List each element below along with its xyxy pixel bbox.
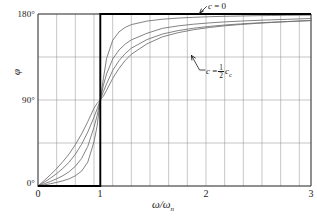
curve-zeta-010 — [38, 15, 311, 186]
x-axis-title-num: ω — [152, 198, 160, 210]
damped-phase-curves — [38, 15, 311, 186]
annotation-c-half-fraction: 12 — [218, 64, 224, 80]
x-tick-label-2: 2 — [197, 189, 215, 199]
annotation-c-zero-value: 0 — [222, 1, 227, 11]
phase-angle-plot — [0, 0, 317, 216]
annotation-c-half-critical: c =12cc — [206, 64, 232, 80]
chart-figure: 180° 90° 0° 0 1 2 3 φ ω/ωn c = 0 c =12cc — [0, 0, 317, 216]
y-tick-label-180: 180° — [2, 10, 35, 19]
leader-c-half — [192, 56, 206, 71]
annotation-c-half-eq: = — [212, 66, 217, 76]
x-tick-label-1: 1 — [91, 189, 109, 199]
annotation-c-zero-eq: = — [214, 1, 219, 11]
y-tick-label-90: 90° — [2, 96, 35, 105]
annotation-c-zero-var: c — [208, 1, 212, 11]
curve-zeta-020 — [38, 19, 311, 187]
x-axis-title: ω/ωn — [133, 198, 193, 213]
y-axis-title: φ — [10, 62, 22, 82]
annotation-c-equals-zero: c = 0 — [208, 1, 226, 11]
annotation-c-half-var: c — [206, 66, 210, 76]
x-axis-title-sub: n — [171, 205, 175, 213]
annotation-leaders — [192, 7, 207, 71]
x-tick-label-3: 3 — [302, 189, 317, 199]
annotation-c-half-denominator: 2 — [218, 71, 224, 80]
x-tick-label-0: 0 — [29, 189, 47, 199]
annotation-c-half-numerator: 1 — [218, 64, 224, 72]
annotation-c-half-sub2: c — [229, 71, 232, 78]
x-axis-title-den: ω — [163, 198, 171, 210]
grid-lines-horizontal — [38, 14, 311, 186]
y-tick-label-0: 0° — [2, 179, 35, 188]
